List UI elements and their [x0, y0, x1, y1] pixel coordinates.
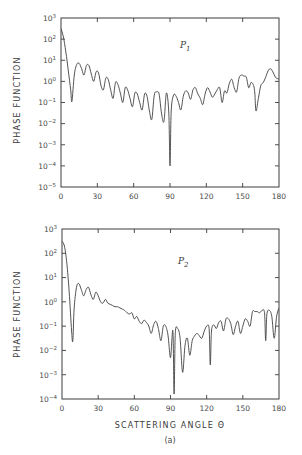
y-axis-title: PHASE FUNCTION: [13, 56, 22, 143]
x-tick-label: 0: [59, 192, 64, 201]
plot-frame: [62, 229, 279, 399]
y-tick-label: 10−5: [38, 182, 56, 192]
y-tick-label: 102: [43, 34, 56, 44]
x-axis-title: SCATTERING ANGLE Θ: [115, 421, 225, 430]
x-tick-label: 90: [166, 404, 176, 413]
y-tick-label: 10−3: [39, 370, 57, 380]
x-tick-label: 30: [93, 404, 103, 413]
panel-label: P2: [177, 256, 189, 269]
y-tick-label: 10−3: [38, 140, 56, 150]
figure-caption-label: (a): [164, 436, 175, 445]
x-tick-label: 150: [236, 404, 251, 413]
y-tick-label: 10−1: [38, 97, 56, 107]
y-tick-label: 10−2: [39, 345, 57, 355]
chart-panel-p1: 10310210110010−110−210−310−410−503060901…: [13, 13, 286, 201]
y-tick-label: 100: [43, 76, 57, 86]
phase-function-curve-p1: [61, 29, 279, 166]
x-tick-label: 30: [93, 192, 103, 201]
x-tick-label: 150: [236, 192, 251, 201]
y-axis-title: PHASE FUNCTION: [13, 270, 22, 357]
x-tick-label: 120: [200, 404, 215, 413]
y-tick-label: 10−4: [39, 394, 57, 404]
x-tick-label: 60: [129, 192, 139, 201]
chart-panel-p2: 10310210110010−110−210−310−4030609012015…: [13, 224, 286, 413]
y-tick-label: 100: [44, 297, 58, 307]
y-tick-label: 102: [44, 248, 57, 258]
y-tick-label: 10−4: [38, 161, 56, 171]
x-tick-label: 180: [272, 192, 287, 201]
panel-label: P1: [179, 40, 191, 53]
x-tick-label: 90: [165, 192, 175, 201]
y-tick-label: 101: [44, 272, 57, 282]
y-tick-label: 101: [43, 55, 56, 65]
y-tick-label: 103: [43, 13, 57, 23]
y-tick-label: 103: [44, 224, 58, 234]
y-tick-label: 10−2: [38, 118, 56, 128]
x-tick-label: 0: [60, 404, 65, 413]
phase-function-figure: 10310210110010−110−210−310−410−503060901…: [0, 0, 302, 455]
x-tick-label: 180: [272, 404, 287, 413]
x-tick-label: 120: [199, 192, 214, 201]
y-tick-label: 10−1: [39, 321, 57, 331]
x-tick-label: 60: [130, 404, 140, 413]
phase-function-curve-p2: [62, 241, 279, 394]
